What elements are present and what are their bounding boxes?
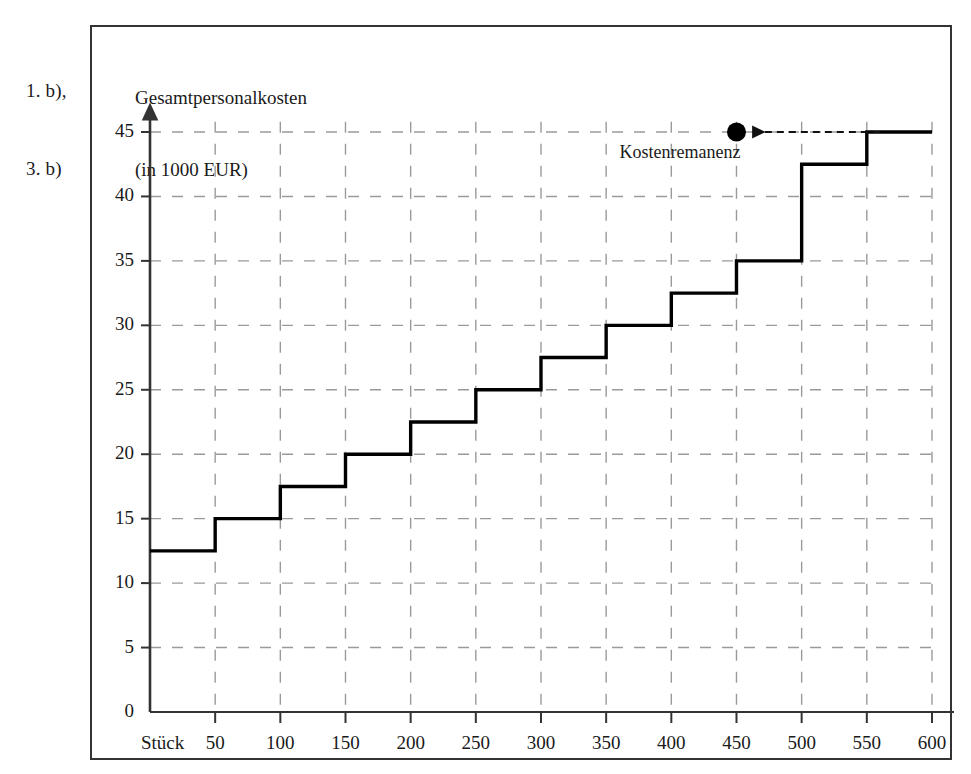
x-axis-tick-label: 550	[837, 732, 897, 754]
x-axis-tick-label: 500	[772, 732, 832, 754]
y-axis-tick-label: 25	[88, 378, 134, 400]
y-axis-tick-label: 0	[88, 700, 134, 722]
chart-plot-area: 051015202530354045 501001502002503003504…	[92, 27, 954, 762]
x-axis-tick-label: 350	[576, 732, 636, 754]
y-axis-tick-label: 40	[88, 184, 134, 206]
exercise-reference-line-2: 3. b)	[26, 156, 67, 182]
step-chart-svg	[92, 27, 954, 762]
x-axis-tick-label: 600	[902, 732, 962, 754]
y-axis-tick-label: 15	[88, 507, 134, 529]
kostenremanenz-label: Kostenremanenz	[619, 142, 740, 163]
x-axis-tick-label: 450	[706, 732, 766, 754]
y-axis-tick-label: 35	[88, 249, 134, 271]
exercise-reference: 1. b), 3. b)	[26, 26, 67, 234]
exercise-reference-line-1: 1. b),	[26, 78, 67, 104]
axis-ticks	[141, 132, 932, 723]
y-axis-tick-label: 5	[88, 636, 134, 658]
grid-lines	[150, 122, 936, 712]
y-axis-tick-label: 10	[88, 571, 134, 593]
x-axis-tick-label: 50	[185, 732, 245, 754]
x-axis-tick-label: 100	[250, 732, 310, 754]
y-axis-tick-label: 20	[88, 442, 134, 464]
x-axis-tick-label: 200	[381, 732, 441, 754]
x-axis-tick-label: 250	[446, 732, 506, 754]
x-axis-tick-label: 400	[641, 732, 701, 754]
x-axis-tick-label: 150	[315, 732, 375, 754]
x-axis-tick-label: 300	[511, 732, 571, 754]
y-axis-tick-label: 30	[88, 313, 134, 335]
figure-frame: Gesamtpersonalkosten (in 1000 EUR)	[90, 25, 952, 760]
figure-page: 1. b), 3. b) Gesamtpersonalkosten (in 10…	[0, 0, 971, 774]
kostenremanenz-marker-dot	[727, 123, 746, 142]
x-axis-unit-label: Stück	[141, 732, 184, 754]
y-axis-tick-label: 45	[88, 120, 134, 142]
